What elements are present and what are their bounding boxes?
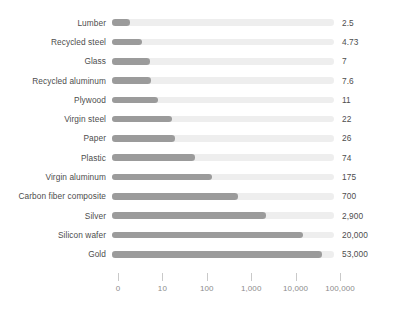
chart-row: Silicon wafer20,000 (0, 225, 396, 244)
bar-fill (112, 19, 130, 26)
row-value-label: 700 (342, 191, 356, 201)
chart-row: Lumber2.5 (0, 13, 396, 32)
row-category-label: Glass (0, 56, 112, 66)
axis-tick-mark (296, 273, 297, 281)
bar-fill (112, 174, 212, 181)
row-value-label: 7.6 (342, 76, 354, 86)
bar-track (112, 97, 334, 104)
bar-fill (112, 58, 150, 65)
bar-fill (112, 77, 151, 84)
axis-tick-mark (207, 273, 208, 281)
bar-track (112, 174, 334, 181)
row-value-label: 11 (342, 95, 351, 105)
row-value-label: 2.5 (342, 18, 354, 28)
row-category-label: Virgin steel (0, 114, 112, 124)
row-category-label: Recycled steel (0, 37, 112, 47)
x-axis: 0101001,00010,000100,000 (118, 273, 341, 303)
row-value-label: 20,000 (342, 230, 368, 240)
row-category-label: Lumber (0, 18, 112, 28)
bar-track (112, 212, 334, 219)
axis-tick-label: 0 (116, 284, 121, 294)
bar-track (112, 39, 334, 46)
row-category-label: Gold (0, 249, 112, 259)
bar-track (112, 135, 334, 142)
axis-tick-label: 100 (200, 284, 214, 294)
bar-track (112, 154, 334, 161)
chart-row: Glass7 (0, 52, 396, 71)
chart-row: Plastic74 (0, 148, 396, 167)
bar-track (112, 58, 334, 65)
axis-tick-mark (118, 273, 119, 281)
row-category-label: Plywood (0, 95, 112, 105)
bar-fill (112, 154, 195, 161)
row-category-label: Carbon fiber composite (0, 191, 112, 201)
chart-rows: Lumber2.5Recycled steel4.73Glass7Recycle… (0, 13, 396, 264)
row-value-label: 74 (342, 153, 351, 163)
row-value-label: 22 (342, 114, 351, 124)
bar-track (112, 193, 334, 200)
bar-fill (112, 135, 175, 142)
row-value-label: 53,000 (342, 249, 368, 259)
axis-tick-mark (251, 273, 252, 281)
row-value-label: 175 (342, 172, 356, 182)
bar-fill (112, 251, 322, 258)
bar-fill (112, 116, 172, 123)
bar-track (112, 19, 334, 26)
axis-tick-label: 10 (158, 284, 167, 294)
row-category-label: Paper (0, 133, 112, 143)
bar-fill (112, 212, 266, 219)
row-category-label: Silicon wafer (0, 230, 112, 240)
row-category-label: Silver (0, 211, 112, 221)
axis-tick-mark (162, 273, 163, 281)
row-category-label: Recycled aluminum (0, 76, 112, 86)
row-value-label: 4.73 (342, 37, 359, 47)
chart-row: Paper26 (0, 129, 396, 148)
row-value-label: 7 (342, 56, 347, 66)
bar-track (112, 77, 334, 84)
bar-fill (112, 97, 158, 104)
chart-row: Carbon fiber composite700 (0, 187, 396, 206)
chart-row: Virgin steel22 (0, 109, 396, 128)
bar-track (112, 232, 334, 239)
row-value-label: 2,900 (342, 211, 363, 221)
log-scale-bar-chart: Lumber2.5Recycled steel4.73Glass7Recycle… (0, 0, 396, 310)
chart-row: Plywood11 (0, 90, 396, 109)
axis-tick-label: 100,000 (325, 284, 355, 294)
axis-tick-label: 10,000 (283, 284, 308, 294)
chart-row: Gold53,000 (0, 245, 396, 264)
bar-fill (112, 232, 303, 239)
bar-track (112, 251, 334, 258)
chart-row: Virgin aluminum175 (0, 167, 396, 186)
chart-row: Silver2,900 (0, 206, 396, 225)
chart-row: Recycled steel4.73 (0, 32, 396, 51)
chart-row: Recycled aluminum7.6 (0, 71, 396, 90)
axis-tick-label: 1,000 (241, 284, 262, 294)
row-category-label: Virgin aluminum (0, 172, 112, 182)
bar-fill (112, 193, 238, 200)
bar-track (112, 116, 334, 123)
row-value-label: 26 (342, 133, 351, 143)
bar-fill (112, 39, 142, 46)
axis-tick-mark (340, 273, 341, 281)
row-category-label: Plastic (0, 153, 112, 163)
